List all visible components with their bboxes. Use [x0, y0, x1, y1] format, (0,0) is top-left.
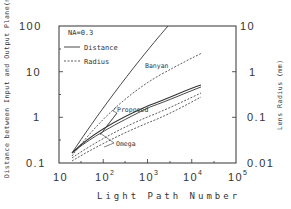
y-axis-title-right: Lens Radius (mm) — [276, 59, 284, 130]
y-left-tick-10: 10 — [26, 66, 41, 78]
banyan-radius-line — [72, 53, 202, 156]
x-tick-10: 10 — [53, 171, 68, 183]
x-axis-title: Light Path Number — [97, 191, 240, 201]
x-tick-1e2: 10 2 — [95, 169, 115, 183]
chart: NA=0.3 Distance Radius Banyan Proposed O… — [0, 0, 291, 209]
omega-label: Omega — [116, 140, 136, 148]
x-ticks — [81, 159, 214, 163]
omega-distance-line — [72, 87, 201, 153]
svg-text:10: 10 — [228, 171, 243, 183]
y-ticks-right — [232, 72, 236, 118]
na-label: NA=0.3 — [68, 29, 93, 37]
y-right-tick-0.1: 0.1 — [247, 111, 267, 123]
svg-text:10: 10 — [139, 171, 154, 183]
legend-radius-label: Radius — [84, 58, 109, 66]
svg-text:4: 4 — [198, 169, 203, 176]
y-right-tick-1: 1 — [249, 66, 257, 78]
x-tick-1e5: 10 5 — [228, 169, 248, 183]
proposed-label: Proposed — [117, 106, 148, 114]
banyan-label: Banyan — [145, 62, 169, 70]
svg-text:5: 5 — [243, 169, 248, 176]
y-left-tick-100: 100 — [19, 20, 42, 32]
svg-text:10: 10 — [95, 171, 110, 183]
svg-text:3: 3 — [154, 169, 159, 176]
svg-text:2: 2 — [110, 169, 115, 176]
svg-text:10: 10 — [183, 171, 198, 183]
y-left-tick-0.1: 0.1 — [26, 157, 46, 169]
y-axis-title-left: Distance between Input and Output Plane(… — [3, 0, 11, 178]
x-tick-1e4: 10 4 — [183, 169, 203, 183]
y-ticks-left — [59, 49, 63, 140]
y-right-tick-0.01: 0.01 — [247, 157, 274, 169]
proposed-radius-line — [72, 93, 201, 158]
y-left-tick-1: 1 — [33, 111, 41, 123]
x-tick-1e3: 10 3 — [139, 169, 159, 183]
legend: NA=0.3 Distance Radius — [64, 29, 118, 66]
y-right-tick-10: 10 — [240, 20, 255, 32]
legend-distance-label: Distance — [84, 44, 118, 52]
leader-lines — [100, 107, 117, 147]
